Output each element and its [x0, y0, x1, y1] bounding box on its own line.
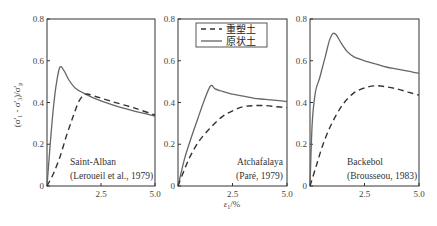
y-tick-label: 0.6	[164, 56, 176, 66]
panel-annotation: Saint-Alban	[70, 157, 116, 167]
y-tick-label: 0.8	[33, 14, 45, 24]
y-axis-title: (σ'1 - σ'3)/σ'p	[12, 83, 23, 127]
y-tick-label: 0	[171, 181, 176, 191]
legend-label-undisturbed: 原状土	[226, 35, 256, 47]
y-tick-label: 0.4	[33, 98, 45, 108]
x-tick-label: 2.5	[227, 189, 239, 199]
panel-annotation: Atchafalaya	[237, 157, 284, 167]
x-tick-label: 2.5	[95, 189, 107, 199]
panel-annotation: (Brousseou, 1983)	[347, 171, 417, 182]
y-tick-label: 0.2	[164, 139, 175, 149]
panel-annotation: Backebol	[347, 157, 383, 167]
y-tick-label: 0.4	[164, 98, 176, 108]
panel-annotation: (Leroueil et al., 1979)	[70, 171, 153, 182]
y-tick-label: 0	[40, 181, 45, 191]
y-tick-label: 0.2	[33, 139, 44, 149]
x-tick-label: 5.0	[281, 189, 293, 199]
undisturbed-curve	[47, 67, 155, 186]
panel-saint-alban: 00.20.40.60.82.55.0Saint-Alban(Leroueil …	[33, 14, 161, 199]
y-tick-label: 0.2	[296, 139, 307, 149]
y-tick-label: 0.4	[296, 98, 308, 108]
y-tick-label: 0	[303, 181, 308, 191]
chart-canvas: 00.20.40.60.82.55.0Saint-Alban(Leroueil …	[0, 0, 437, 226]
y-tick-label: 0.6	[296, 56, 308, 66]
x-tick-label: 5.0	[413, 189, 425, 199]
legend-label-remolded: 重塑土	[226, 23, 256, 35]
legend: 重塑土 原状土	[196, 23, 267, 47]
x-tick-label: 5.0	[149, 189, 161, 199]
panel-annotation: (Paré, 1979)	[236, 171, 283, 182]
panel-backebol: 00.20.40.60.82.55.0Backebol(Brousseou, 1…	[296, 14, 425, 199]
y-tick-label: 0.8	[164, 14, 176, 24]
x-axis-title: ε1/%	[224, 199, 241, 210]
x-tick-label: 2.5	[359, 189, 371, 199]
y-tick-label: 0.8	[296, 14, 308, 24]
y-tick-label: 0.6	[33, 56, 45, 66]
